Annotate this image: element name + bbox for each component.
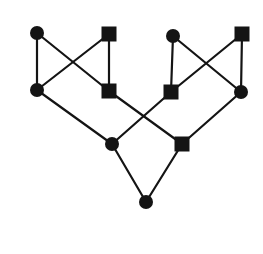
circle-node-n1: [30, 26, 44, 40]
circle-node-n3: [166, 29, 180, 43]
graph-diagram: [0, 0, 263, 254]
circle-node-n9: [105, 137, 119, 151]
edge-n4-n8: [241, 34, 242, 92]
circle-node-n5: [30, 83, 44, 97]
square-node-n7: [164, 85, 179, 100]
square-node-n4: [235, 27, 250, 42]
square-node-n2: [102, 27, 117, 42]
circle-node-n11: [139, 195, 153, 209]
square-node-n6: [102, 84, 117, 99]
square-node-n10: [175, 137, 190, 152]
circle-node-n8: [234, 85, 248, 99]
